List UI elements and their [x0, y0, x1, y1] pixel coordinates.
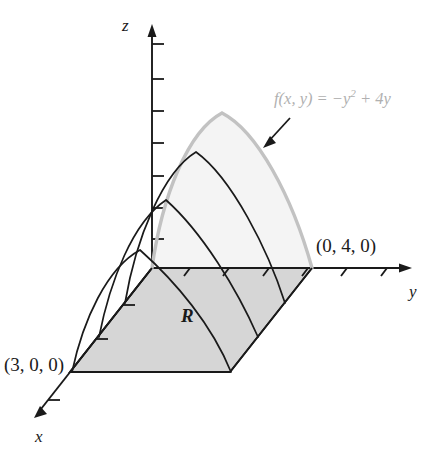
point-label-3-0-0: (3, 0, 0) — [4, 355, 64, 374]
z-axis-label: z — [122, 17, 129, 34]
surface-integral-figure: z y x (3, 0, 0) (0, 4, 0) R f(x, y) = −y… — [0, 0, 428, 453]
z-axis-arrowhead — [148, 24, 157, 37]
diagram-canvas — [0, 0, 428, 453]
function-label-suffix: + 4y — [356, 89, 391, 108]
region-label-R: R — [181, 306, 194, 325]
function-pointer-arrowhead — [263, 136, 276, 148]
point-label-0-4-0: (0, 4, 0) — [316, 236, 376, 255]
x-axis-arrowhead — [34, 406, 47, 418]
y-axis-tick — [381, 268, 387, 276]
y-axis-arrowhead — [399, 264, 412, 273]
function-label-args: (x, y) = −y — [279, 89, 351, 108]
y-axis-tick — [341, 268, 347, 276]
y-axis-label: y — [409, 283, 417, 300]
function-label: f(x, y) = −y2 + 4y — [274, 88, 391, 107]
x-axis-label: x — [35, 428, 43, 445]
